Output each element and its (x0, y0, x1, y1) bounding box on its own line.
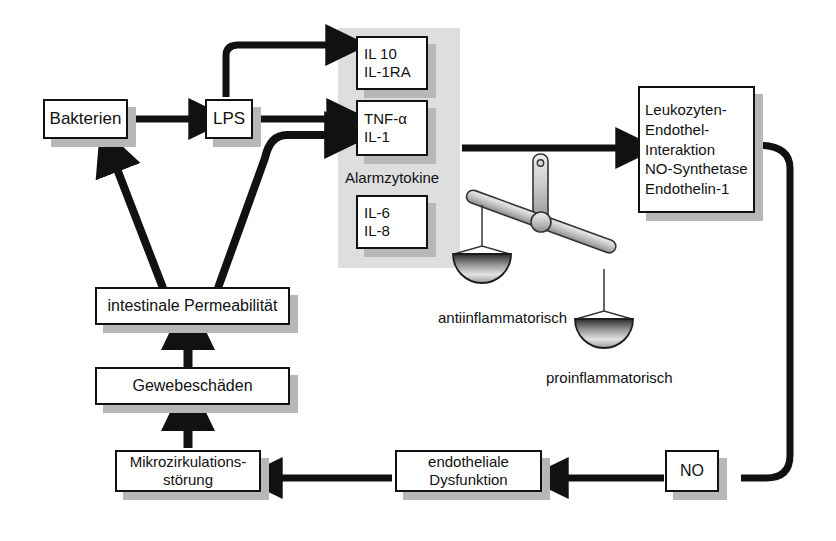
caption-alarmzytokine-text: Alarmzytokine (345, 169, 439, 186)
node-alarm-line2: IL-1 (364, 128, 390, 146)
node-antiinflammatory-cytokines[interactable]: IL 10 IL-1RA (356, 36, 428, 90)
node-gewebeschaeden-label: Gewebeschäden (128, 377, 256, 396)
node-antiinflam-line2: IL-1RA (364, 63, 411, 81)
node-il68-line2: IL-8 (364, 222, 390, 240)
node-gewebeschaeden[interactable]: Gewebeschäden (95, 367, 290, 405)
caption-alarmzytokine: Alarmzytokine (345, 169, 439, 186)
node-dysfunktion-line2: Dysfunktion (429, 471, 507, 489)
node-no[interactable]: NO (665, 450, 719, 492)
node-dysfunktion-line1: endotheliale (428, 453, 509, 471)
node-il6-il8[interactable]: IL-6 IL-8 (356, 195, 428, 249)
node-endothel-line4: NO-Synthetase (645, 159, 748, 179)
arrow-lps-to-antiinflam (226, 45, 340, 97)
node-mikrozirkulation-line1: Mikrozirkulations- (130, 453, 247, 471)
caption-antiinflammatorisch: antiinflammatorisch (438, 309, 567, 326)
node-lps-label: LPS (209, 109, 249, 129)
node-mikrozirkulation-line2: störung (163, 471, 213, 489)
node-no-label: NO (676, 462, 708, 481)
node-lps[interactable]: LPS (205, 99, 253, 139)
node-endothel-line5: Endothelin-1 (645, 179, 729, 199)
node-endothel-line3: Interaktion (645, 140, 715, 160)
arrow-permeability-to-alarm (218, 135, 341, 288)
node-antiinflam-line1: IL 10 (364, 45, 397, 63)
node-permeability-label: intestinale Permeabilität (104, 297, 282, 316)
node-endothel[interactable]: Leukozyten- Endothel- Interaktion NO-Syn… (638, 86, 755, 213)
node-bakterien-label: Bakterien (46, 109, 126, 129)
node-bakterien[interactable]: Bakterien (43, 99, 128, 139)
node-alarm-line1: TNF-α (364, 110, 407, 128)
caption-proinflammatorisch: proinflammatorisch (546, 369, 673, 386)
node-endothel-line2: Endothel- (645, 120, 709, 140)
node-endothel-line1: Leukozyten- (645, 100, 727, 120)
node-mikrozirkulationsstoerung[interactable]: Mikrozirkulations- störung (115, 450, 261, 492)
node-alarm-cytokines[interactable]: TNF-α IL-1 (356, 100, 428, 156)
node-endotheliale-dysfunktion[interactable]: endotheliale Dysfunktion (395, 450, 542, 492)
arrow-permeability-to-bakterien (112, 156, 163, 288)
caption-antiinflammatorisch-text: antiinflammatorisch (438, 309, 567, 326)
node-intestinale-permeabilitaet[interactable]: intestinale Permeabilität (95, 287, 290, 325)
node-il68-line1: IL-6 (364, 204, 390, 222)
caption-proinflammatorisch-text: proinflammatorisch (546, 369, 673, 386)
diagram-canvas: Bakterien LPS IL 10 IL-1RA TNF-α IL-1 IL… (0, 0, 836, 541)
